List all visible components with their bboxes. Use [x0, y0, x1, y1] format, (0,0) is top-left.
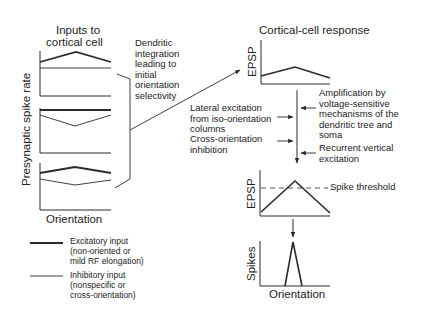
inputs-title: Inputs to	[48, 24, 108, 36]
input-plot-1	[40, 51, 111, 96]
response-x-axis-label: Orientation	[269, 289, 325, 300]
legend-excitatory-label: Excitatory input (non-oriented or mild R…	[70, 236, 144, 266]
input-plot-2	[40, 108, 111, 153]
integration-bracket	[115, 74, 130, 188]
epsp-axis-label-1: EPSP	[247, 46, 258, 77]
excitatory-curve	[40, 52, 111, 62]
epsp-plot-initial	[261, 40, 330, 84]
lateral-excitation-label: Lateral excitation from iso-orientation …	[190, 103, 271, 135]
inputs-title-line2: cortical cell	[46, 36, 103, 48]
excitatory-curve	[40, 167, 111, 173]
dendritic-integration-label: Dendritic integration leading to initial…	[135, 38, 179, 101]
epsp-curve	[261, 181, 330, 213]
cortical-response-title: Cortical-cell response	[259, 24, 370, 36]
spike-threshold-label: Spike threshold	[330, 182, 395, 193]
epsp-axis-label-2: EPSP	[246, 178, 257, 209]
input-plot-3	[40, 163, 111, 210]
epsp-plot-amplified	[260, 170, 330, 216]
legend-inhibitory-label: Inhibitory input (nonspecific or cross-o…	[70, 270, 136, 300]
spike-curve	[285, 242, 302, 286]
amplification-label: Amplification by voltage-sensitive mecha…	[319, 88, 399, 141]
recurrent-excitation-label: Recurrent vertical excitation	[319, 143, 393, 164]
inputs-x-axis-label: Orientation	[46, 214, 102, 225]
inhibitory-curve	[40, 179, 111, 185]
inhibitory-curve	[40, 115, 111, 126]
spikes-plot	[260, 241, 330, 286]
epsp-curve	[261, 67, 330, 78]
presynaptic-y-axis-label: Presynaptic spike rate	[21, 73, 32, 186]
cross-orientation-label: Cross-orientation inhibition	[190, 134, 262, 155]
spikes-axis-label: Spikes	[246, 246, 257, 281]
